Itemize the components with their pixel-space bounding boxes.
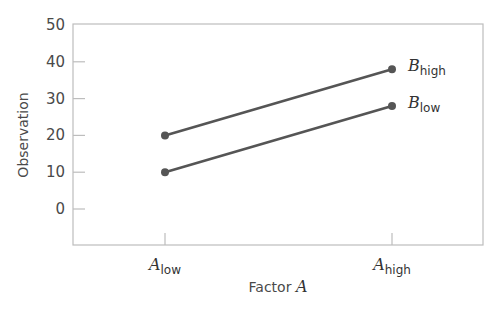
interaction-plot: 01020304050 AlowAhigh BhighBlow Observat… — [0, 0, 496, 317]
data-series — [161, 65, 396, 176]
x-axis-ticks: AlowAhigh — [147, 233, 411, 277]
x-tick-label: Ahigh — [371, 255, 411, 277]
y-tick-label: 0 — [55, 200, 65, 218]
y-tick-label: 20 — [46, 126, 65, 144]
y-tick-label: 10 — [46, 163, 65, 181]
x-tick-label: Alow — [147, 255, 181, 277]
plot-frame — [73, 24, 483, 245]
data-point — [388, 65, 396, 73]
x-axis-title: Factor A — [249, 277, 308, 296]
y-tick-label: 30 — [46, 90, 65, 108]
series-label-B_low: Blow — [407, 93, 440, 115]
data-point — [161, 168, 169, 176]
y-tick-label: 50 — [46, 16, 65, 34]
y-tick-label: 40 — [46, 53, 65, 71]
series-labels: BhighBlow — [407, 56, 446, 115]
data-point — [388, 102, 396, 110]
data-point — [161, 131, 169, 139]
series-line-B_high — [165, 69, 392, 135]
series-label-B_high: Bhigh — [407, 56, 446, 78]
y-axis-title: Observation — [15, 92, 31, 177]
plot-border — [73, 24, 483, 245]
y-axis-ticks: 01020304050 — [46, 16, 85, 218]
series-line-B_low — [165, 106, 392, 172]
